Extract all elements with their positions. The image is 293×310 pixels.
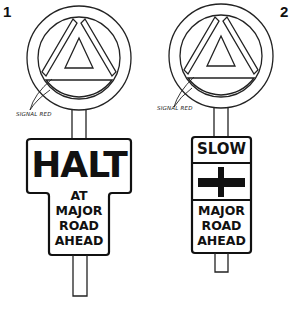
signal-red-label-1: SIGNAL RED (16, 111, 52, 117)
signal-red-label-2: SIGNAL RED (157, 105, 193, 111)
figure-number-1: 1 (3, 4, 11, 19)
figure-number-2: 2 (280, 4, 288, 19)
halt-sub-line-road: ROAD (49, 220, 109, 233)
slow-sub-line-ahead: AHEAD (192, 235, 251, 248)
slow-sub-line-road: ROAD (192, 220, 251, 233)
sign-2-bottom-band-icon (188, 78, 254, 95)
sign-1-outer-ring-icon (27, 6, 131, 110)
sign-2-outer-ring-icon (169, 4, 273, 108)
halt-sub-line-at: AT (49, 190, 109, 203)
crossroads-vertical-bar-icon (218, 167, 224, 197)
sign-1-inner-triangle-icon (65, 38, 93, 68)
halt-sub-line-major: MAJOR (49, 205, 109, 218)
sign-2-inner-triangle-icon (207, 36, 235, 66)
slow-text: SLOW (192, 142, 251, 157)
halt-text: HALT (27, 147, 131, 183)
halt-sub-line-ahead: AHEAD (49, 235, 109, 248)
sign-1-pole-lower (73, 255, 87, 296)
sign-1-bottom-band-icon (46, 80, 112, 97)
sign-2-pole-lower (215, 253, 228, 272)
slow-sub-line-major: MAJOR (192, 205, 251, 218)
